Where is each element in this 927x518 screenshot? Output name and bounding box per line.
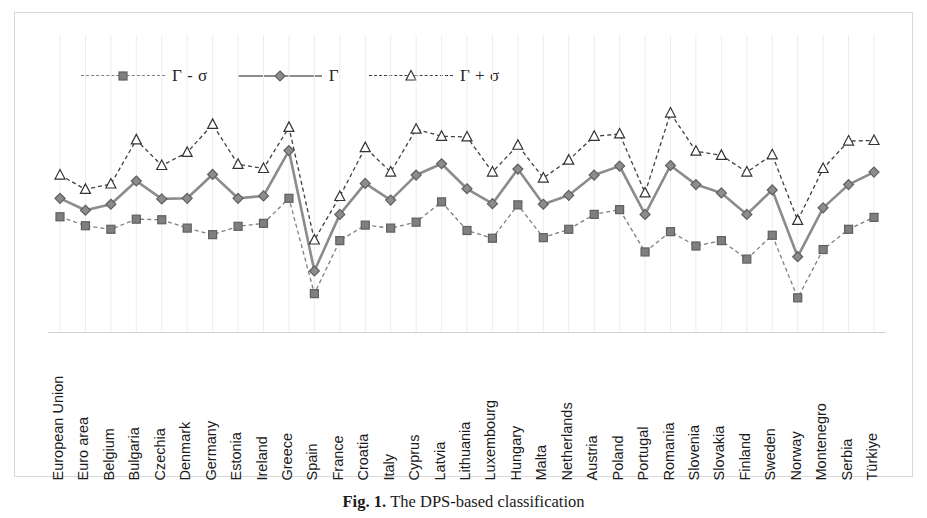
category-label: Cyprus bbox=[407, 434, 422, 480]
triangle-marker bbox=[691, 146, 701, 156]
figure-caption: Fig. 1. The DPS-based classification bbox=[0, 492, 927, 512]
plot-area bbox=[48, 35, 886, 333]
square-marker bbox=[183, 224, 191, 232]
square-marker bbox=[641, 248, 649, 256]
category-label: Slovenia bbox=[686, 424, 701, 480]
category-label: Greece bbox=[279, 432, 294, 480]
category-label: Serbia bbox=[839, 438, 854, 480]
triangle-marker bbox=[411, 124, 421, 134]
square-marker bbox=[438, 198, 446, 206]
diamond-marker bbox=[640, 209, 650, 219]
square-marker bbox=[514, 201, 522, 209]
category-label: Austria bbox=[585, 435, 600, 480]
category-label: Lithuania bbox=[458, 421, 473, 480]
triangle-marker bbox=[259, 163, 269, 173]
triangle-marker bbox=[869, 135, 879, 145]
category-label: Bulgaria bbox=[127, 427, 142, 480]
caption-label: Fig. 1. bbox=[343, 492, 387, 511]
triangle-marker bbox=[742, 167, 752, 177]
square-marker bbox=[539, 234, 547, 242]
category-label: Finland bbox=[737, 432, 752, 480]
square-marker bbox=[717, 237, 725, 245]
category-label: Norway bbox=[788, 431, 803, 480]
diamond-marker bbox=[309, 266, 319, 276]
triangle-marker bbox=[640, 187, 650, 197]
category-label: European Union bbox=[51, 375, 66, 480]
square-marker bbox=[590, 210, 598, 218]
category-label: Malta bbox=[534, 445, 549, 480]
square-marker bbox=[56, 213, 64, 221]
diamond-marker bbox=[80, 205, 90, 215]
category-label: Netherlands bbox=[559, 402, 574, 480]
triangle-marker bbox=[360, 142, 370, 152]
category-label: Belgium bbox=[101, 428, 116, 480]
triangle-marker bbox=[208, 119, 218, 128]
diamond-marker bbox=[615, 161, 625, 171]
square-marker bbox=[285, 194, 293, 202]
category-label: Portugal bbox=[636, 426, 651, 480]
triangle-marker bbox=[513, 140, 523, 150]
square-marker bbox=[310, 290, 318, 298]
square-marker bbox=[743, 255, 751, 263]
diamond-marker bbox=[259, 191, 269, 201]
category-label: Germany bbox=[203, 420, 218, 480]
triangle-marker bbox=[818, 163, 828, 173]
square-marker bbox=[209, 231, 217, 239]
category-label: Estonia bbox=[229, 432, 244, 480]
triangle-marker bbox=[564, 155, 574, 165]
category-label: France bbox=[330, 435, 345, 480]
triangle-marker bbox=[844, 136, 854, 146]
triangle-marker bbox=[55, 170, 65, 180]
triangle-marker bbox=[284, 122, 294, 132]
category-label: Denmark bbox=[178, 421, 193, 480]
square-marker bbox=[616, 206, 624, 214]
category-label: Ireland bbox=[254, 436, 269, 480]
triangle-marker bbox=[716, 150, 726, 160]
triangle-marker bbox=[767, 149, 777, 159]
category-label: Poland bbox=[610, 435, 625, 480]
category-label: Euro area bbox=[76, 416, 91, 480]
category-label: Slovakia bbox=[712, 425, 727, 480]
triangle-marker bbox=[309, 235, 319, 245]
square-marker bbox=[387, 224, 395, 232]
category-label: Sweden bbox=[763, 428, 778, 480]
triangle-marker bbox=[589, 131, 599, 141]
category-label: Romania bbox=[661, 422, 676, 480]
category-label: Luxembourg bbox=[483, 399, 498, 480]
triangle-marker bbox=[233, 159, 243, 169]
category-label: Czechia bbox=[152, 428, 167, 480]
category-label: Latvia bbox=[432, 441, 447, 480]
square-marker bbox=[361, 221, 369, 229]
category-label: Spain bbox=[305, 443, 320, 480]
square-marker bbox=[463, 226, 471, 234]
triangle-marker bbox=[615, 128, 625, 138]
category-label: Italy bbox=[381, 453, 396, 480]
square-marker bbox=[107, 225, 115, 233]
square-marker bbox=[81, 222, 89, 230]
triangle-marker bbox=[106, 179, 116, 189]
category-axis: European UnionEuro areaBelgiumBulgariaCz… bbox=[48, 335, 886, 480]
square-marker bbox=[845, 225, 853, 233]
square-marker bbox=[565, 225, 573, 233]
triangle-marker bbox=[131, 134, 141, 144]
triangle-marker bbox=[793, 215, 803, 225]
chart-svg bbox=[48, 35, 886, 333]
triangle-marker bbox=[80, 184, 90, 194]
square-marker bbox=[132, 215, 140, 223]
triangle-marker bbox=[462, 131, 472, 141]
category-label: Hungary bbox=[508, 425, 523, 480]
square-marker bbox=[692, 242, 700, 250]
square-marker bbox=[234, 222, 242, 230]
category-label: Türkiye bbox=[865, 432, 880, 480]
category-label: Montenegro bbox=[814, 403, 829, 480]
square-marker bbox=[412, 218, 420, 226]
diamond-marker bbox=[793, 252, 803, 262]
square-marker bbox=[819, 246, 827, 254]
triangle-marker bbox=[335, 191, 345, 201]
diamond-marker bbox=[284, 146, 294, 156]
square-marker bbox=[794, 294, 802, 302]
square-marker bbox=[667, 228, 675, 236]
figure-frame: Γ - σΓΓ + σ European UnionEuro areaBelgi… bbox=[14, 12, 913, 477]
square-marker bbox=[488, 234, 496, 242]
category-label: Croatia bbox=[356, 433, 371, 480]
